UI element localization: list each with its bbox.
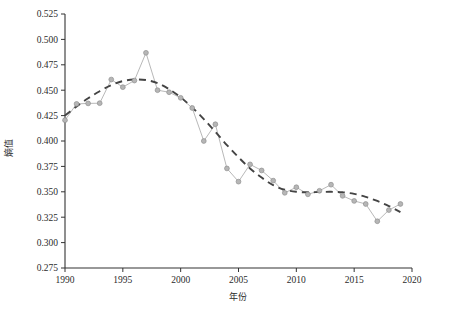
y-tick-label: 0.500 bbox=[37, 35, 59, 45]
x-axis-ticks: 1990199520002005201020152020 bbox=[56, 268, 422, 285]
x-tick-label: 2005 bbox=[229, 275, 248, 285]
data-series-line bbox=[65, 53, 400, 221]
data-point-marker bbox=[167, 90, 172, 95]
y-tick-label: 0.400 bbox=[37, 136, 59, 146]
y-tick-label: 0.300 bbox=[37, 238, 59, 248]
data-point-marker bbox=[259, 168, 264, 173]
y-tick-label: 0.450 bbox=[37, 86, 59, 96]
data-point-marker bbox=[352, 199, 357, 204]
data-point-marker bbox=[74, 102, 79, 107]
data-point-markers bbox=[63, 50, 403, 223]
y-axis-title: 熵值 bbox=[3, 139, 14, 157]
y-tick-label: 0.375 bbox=[37, 162, 59, 172]
data-point-marker bbox=[386, 208, 391, 213]
data-point-marker bbox=[201, 139, 206, 144]
x-tick-label: 2020 bbox=[403, 275, 422, 285]
data-point-marker bbox=[271, 178, 276, 183]
data-point-marker bbox=[363, 202, 368, 207]
data-point-marker bbox=[213, 122, 218, 127]
data-point-marker bbox=[329, 182, 334, 187]
data-point-marker bbox=[86, 101, 91, 106]
chart-container: 0.2750.3000.3250.3500.3750.4000.4250.450… bbox=[0, 0, 450, 309]
x-tick-label: 1995 bbox=[113, 275, 132, 285]
data-point-marker bbox=[282, 190, 287, 195]
y-tick-label: 0.425 bbox=[37, 111, 59, 121]
data-point-marker bbox=[236, 179, 241, 184]
x-tick-label: 2015 bbox=[345, 275, 364, 285]
y-tick-label: 0.525 bbox=[37, 9, 59, 19]
data-point-marker bbox=[317, 188, 322, 193]
trend-line bbox=[65, 79, 400, 212]
y-tick-label: 0.350 bbox=[37, 187, 59, 197]
x-axis-title: 年份 bbox=[229, 291, 247, 302]
y-tick-label: 0.275 bbox=[37, 263, 59, 273]
x-tick-label: 2000 bbox=[171, 275, 190, 285]
data-point-marker bbox=[190, 106, 195, 111]
data-point-marker bbox=[144, 50, 149, 55]
data-point-marker bbox=[225, 166, 230, 171]
data-point-marker bbox=[306, 192, 311, 197]
data-point-marker bbox=[178, 95, 183, 100]
x-tick-label: 2010 bbox=[287, 275, 306, 285]
y-axis-ticks: 0.2750.3000.3250.3500.3750.4000.4250.450… bbox=[37, 9, 65, 273]
y-tick-label: 0.325 bbox=[37, 213, 59, 223]
line-chart: 0.2750.3000.3250.3500.3750.4000.4250.450… bbox=[0, 0, 450, 309]
data-point-marker bbox=[294, 185, 299, 190]
data-point-marker bbox=[63, 118, 68, 123]
data-point-marker bbox=[109, 77, 114, 82]
data-point-marker bbox=[155, 88, 160, 93]
data-point-marker bbox=[375, 219, 380, 224]
data-point-marker bbox=[120, 85, 125, 90]
data-point-marker bbox=[97, 101, 102, 106]
y-tick-label: 0.475 bbox=[37, 60, 59, 70]
x-tick-label: 1990 bbox=[56, 275, 75, 285]
data-point-marker bbox=[248, 162, 253, 167]
data-point-marker bbox=[340, 193, 345, 198]
data-point-marker bbox=[398, 202, 403, 207]
data-point-marker bbox=[132, 78, 137, 83]
